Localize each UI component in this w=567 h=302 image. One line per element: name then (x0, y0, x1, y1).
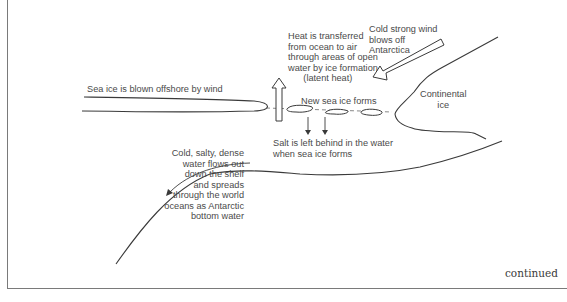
wind-label: Cold strong wind blows off Antarctica (369, 24, 437, 56)
salt-down-arrow-icon (305, 117, 311, 135)
dense-water-label: Cold, salty, dense water flows out down … (76, 148, 244, 222)
new-sea-ice-label: New sea ice forms (301, 96, 377, 107)
sea-ice-floe-icon (361, 109, 382, 115)
sea-ice-blown-label: Sea ice is blown offshore by wind (87, 84, 223, 95)
continental-ice-label: Continental ice (420, 89, 466, 110)
continued-label: continued (505, 267, 558, 279)
salt-down-arrow-icon (322, 117, 328, 135)
heat-transfer-label: Heat is transferred from ocean to air th… (288, 31, 378, 84)
offshore-sea-ice (82, 97, 268, 112)
sea-ice-floe-icon (325, 109, 348, 114)
salt-label: Salt is left behind in the water when se… (273, 138, 393, 159)
heat-up-arrow-icon (272, 78, 286, 121)
